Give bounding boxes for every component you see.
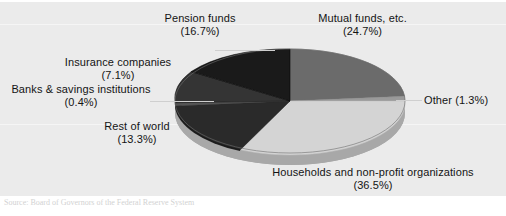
pie-label-households-percent: (36.5%) — [258, 179, 488, 192]
pie-label-pension-funds: Pension funds (16.7%) — [130, 12, 270, 38]
leader-line-banks — [150, 101, 214, 102]
pie-label-rest-of-world-text: Rest of world — [104, 120, 170, 132]
figure-root: Pension funds (16.7%) Mutual funds, etc.… — [0, 0, 506, 216]
pie-label-insurance-companies-percent: (7.1%) — [48, 69, 188, 82]
leader-line-pension-funds — [215, 50, 275, 51]
pie-label-insurance-companies: Insurance companies (7.1%) — [48, 56, 188, 82]
pie-label-households-text: Households and non-profit organizations — [272, 166, 473, 178]
pie-label-banks-percent: (0.4%) — [10, 96, 152, 109]
pie-label-pension-funds-percent: (16.7%) — [130, 25, 270, 38]
figure-footnote: Source: Board of Governors of the Federa… — [0, 198, 506, 216]
leader-line-other — [396, 100, 422, 101]
chart-panel: Pension funds (16.7%) Mutual funds, etc.… — [0, 2, 506, 196]
pie-label-insurance-companies-text: Insurance companies — [65, 56, 171, 68]
pie-label-mutual-funds-text: Mutual funds, etc. — [318, 12, 407, 24]
pie-label-mutual-funds: Mutual funds, etc. (24.7%) — [280, 12, 445, 38]
pie-label-pension-funds-text: Pension funds — [164, 12, 235, 24]
pie-label-banks-text: Banks & savings institutions — [11, 83, 150, 95]
pie-chart: Pension funds (16.7%) Mutual funds, etc.… — [0, 2, 506, 196]
pie-label-banks: Banks & savings institutions (0.4%) — [10, 83, 152, 109]
pie-label-mutual-funds-percent: (24.7%) — [280, 25, 445, 38]
pie-slice-mutual-funds — [290, 49, 405, 101]
pie-label-rest-of-world-percent: (13.3%) — [82, 133, 192, 146]
pie-label-other-text: Other (1.3%) — [424, 94, 488, 106]
figure-footnote-text: Source: Board of Governors of the Federa… — [4, 198, 194, 207]
pie-label-other: Other (1.3%) — [424, 94, 488, 107]
pie-label-households: Households and non-profit organizations … — [258, 166, 488, 192]
pie-label-rest-of-world: Rest of world (13.3%) — [82, 120, 192, 146]
